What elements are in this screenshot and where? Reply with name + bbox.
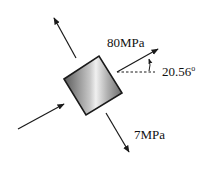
arrow-lower-left	[18, 104, 64, 129]
arrow-upper-left	[54, 18, 76, 58]
label-7mpa: 7MPa	[134, 127, 165, 142]
label-angle: 20.56o	[162, 64, 195, 79]
stress-element-diagram: 80MPa 7MPa 20.56o	[0, 0, 205, 170]
stress-element-square	[64, 56, 122, 115]
label-80mpa: 80MPa	[107, 35, 145, 50]
arrow-lower-right	[106, 113, 129, 152]
degree-symbol: o	[191, 64, 195, 73]
angle-arc-icon	[149, 59, 150, 71]
arrow-upper-right	[117, 49, 158, 72]
angle-value: 20.56	[162, 64, 192, 79]
